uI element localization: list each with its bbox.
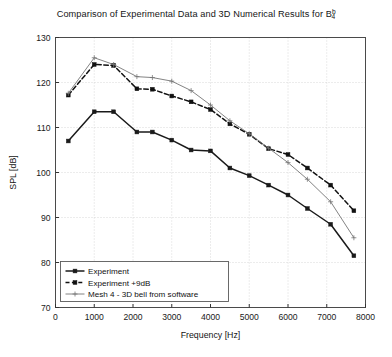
y-tick-label: 70	[41, 303, 51, 313]
y-axis-title: SPL [dB]	[8, 155, 18, 189]
data-point-marker	[329, 183, 333, 187]
data-point-marker	[209, 108, 213, 112]
data-point-marker	[352, 209, 356, 213]
y-tick-label: 80	[41, 258, 51, 268]
data-point-marker	[150, 130, 154, 134]
chart-figure: Comparison of Experimental Data and 3D N…	[0, 0, 392, 357]
data-point-marker	[247, 174, 251, 178]
legend-label: Experiment +9dB	[88, 279, 150, 288]
plot-area: 708090100110120130 010002000300040005000…	[0, 0, 392, 357]
data-point-marker	[189, 100, 193, 104]
x-tick-label: 0	[53, 312, 58, 322]
data-point-marker	[267, 183, 271, 187]
data-point-marker	[305, 166, 309, 170]
x-tick-label: 6000	[278, 312, 297, 322]
legend-label: Mesh 4 - 3D bell from software	[88, 290, 199, 299]
x-tick-label: 1000	[85, 312, 104, 322]
x-axis-title: Frequency [Hz]	[181, 330, 241, 340]
x-axis-tick-labels: 010002000300040005000600070008000	[53, 312, 375, 322]
series-2	[66, 63, 355, 213]
x-tick-label: 4000	[201, 312, 220, 322]
data-point-marker	[352, 254, 356, 258]
data-series-layer	[66, 55, 357, 257]
data-point-marker	[286, 193, 290, 197]
data-point-marker	[150, 87, 154, 91]
data-point-marker	[135, 130, 139, 134]
data-point-marker	[66, 139, 70, 143]
legend-label: Experiment	[88, 267, 130, 276]
data-point-marker	[189, 148, 193, 152]
y-axis-tick-labels: 708090100110120130	[36, 33, 51, 313]
y-tick-label: 100	[36, 168, 51, 178]
data-point-marker	[286, 153, 290, 157]
x-tick-label: 7000	[317, 312, 336, 322]
data-point-marker	[305, 207, 309, 211]
data-point-marker	[73, 281, 77, 285]
data-point-marker	[112, 110, 116, 114]
y-tick-label: 90	[41, 213, 51, 223]
data-point-marker	[135, 87, 139, 91]
data-point-marker	[92, 110, 96, 114]
x-tick-label: 8000	[356, 312, 375, 322]
x-tick-label: 5000	[240, 312, 259, 322]
y-tick-label: 120	[36, 78, 51, 88]
data-point-marker	[329, 222, 333, 226]
y-tick-label: 130	[36, 33, 51, 43]
x-tick-label: 3000	[162, 312, 181, 322]
y-tick-label: 110	[37, 123, 51, 133]
x-tick-label: 2000	[123, 312, 142, 322]
data-point-marker	[170, 138, 174, 142]
data-point-marker	[209, 149, 213, 153]
data-point-marker	[73, 269, 77, 273]
chart-legend[interactable]: ExperimentExperiment +9dBMesh 4 - 3D bel…	[61, 262, 229, 302]
data-point-marker	[92, 63, 96, 67]
data-point-marker	[170, 94, 174, 98]
data-point-marker	[228, 166, 232, 170]
